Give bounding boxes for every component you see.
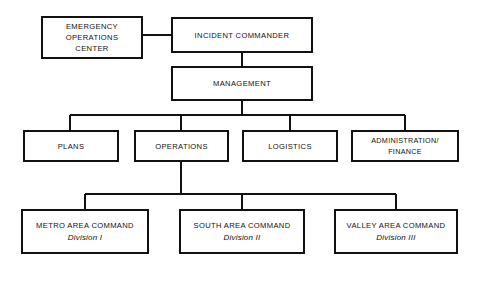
node-plans[interactable]: PLANS — [24, 131, 118, 161]
metro-area-command-label: METRO AREA COMMAND — [36, 221, 134, 230]
node-south-area-command[interactable]: SOUTH AREA COMMAND Division II — [180, 210, 304, 253]
metro-area-command-box[interactable] — [22, 210, 148, 253]
valley-area-command-label: VALLEY AREA COMMAND — [347, 221, 446, 230]
org-chart-canvas: EMERGENCY OPERATIONS CENTER INCIDENT COM… — [0, 0, 479, 284]
node-management[interactable]: MANAGEMENT — [172, 67, 312, 100]
plans-label: PLANS — [58, 142, 85, 151]
node-metro-area-command[interactable]: METRO AREA COMMAND Division I — [22, 210, 148, 253]
emergency-operations-center-label-line1: EMERGENCY — [66, 22, 118, 31]
south-area-command-box[interactable] — [180, 210, 304, 253]
node-emergency-operations-center[interactable]: EMERGENCY OPERATIONS CENTER — [42, 17, 142, 58]
node-administration-finance[interactable]: ADMINISTRATION/ FINANCE — [352, 131, 458, 161]
organizational-chart-diagram: EMERGENCY OPERATIONS CENTER INCIDENT COM… — [0, 0, 479, 284]
administration-finance-label-line2: FINANCE — [388, 147, 422, 156]
connector-layer — [70, 35, 405, 210]
logistics-label: LOGISTICS — [268, 142, 312, 151]
emergency-operations-center-label-line3: CENTER — [75, 44, 108, 53]
node-valley-area-command[interactable]: VALLEY AREA COMMAND Division III — [335, 210, 457, 253]
node-logistics[interactable]: LOGISTICS — [243, 131, 337, 161]
node-incident-commander[interactable]: INCIDENT COMMANDER — [172, 18, 312, 52]
administration-finance-label-line1: ADMINISTRATION/ — [371, 136, 438, 145]
metro-area-command-division-label: Division I — [68, 233, 103, 242]
node-operations[interactable]: OPERATIONS — [135, 131, 228, 161]
operations-label: OPERATIONS — [155, 142, 208, 151]
south-area-command-division-label: Division II — [224, 233, 261, 242]
management-label: MANAGEMENT — [213, 79, 271, 88]
incident-commander-label: INCIDENT COMMANDER — [195, 31, 290, 40]
emergency-operations-center-label-line2: OPERATIONS — [66, 33, 119, 42]
south-area-command-label: SOUTH AREA COMMAND — [193, 221, 290, 230]
valley-area-command-division-label: Division III — [376, 233, 416, 242]
valley-area-command-box[interactable] — [335, 210, 457, 253]
